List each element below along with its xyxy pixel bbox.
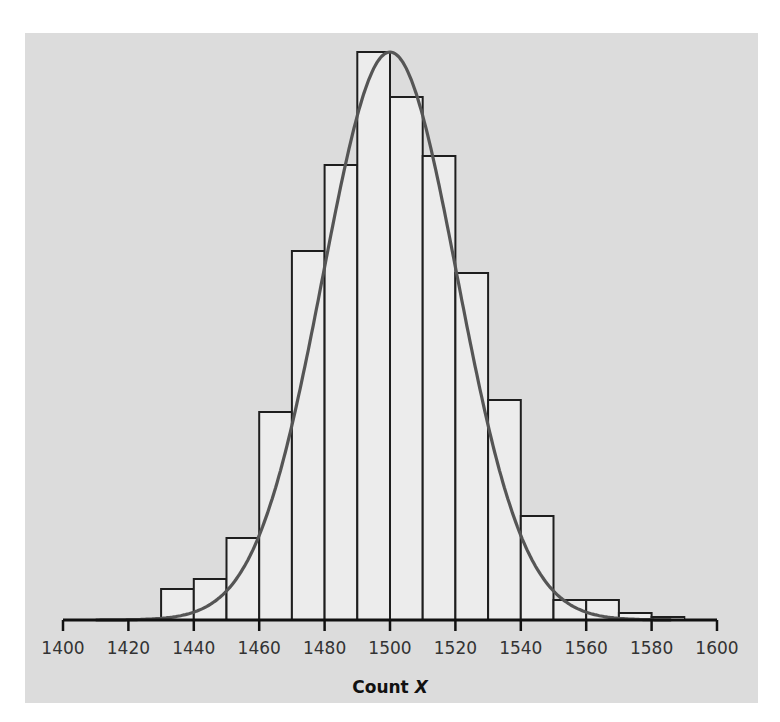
histogram-chart: 1400142014401460148015001520154015601580… bbox=[0, 0, 780, 722]
histogram-bar-1510 bbox=[423, 156, 456, 620]
histogram-bar-1520 bbox=[455, 273, 488, 620]
x-tick-label-1520: 1520 bbox=[434, 638, 477, 658]
x-tick-label-1580: 1580 bbox=[630, 638, 673, 658]
x-tick-label-1500: 1500 bbox=[368, 638, 411, 658]
x-tick-label-1560: 1560 bbox=[565, 638, 608, 658]
histogram-bar-1500 bbox=[390, 97, 423, 620]
x-tick-label-1420: 1420 bbox=[107, 638, 150, 658]
x-tick-label-1600: 1600 bbox=[695, 638, 738, 658]
histogram-bar-1490 bbox=[357, 52, 390, 620]
x-tick-label-1460: 1460 bbox=[238, 638, 281, 658]
histogram-bar-1440 bbox=[194, 579, 227, 620]
x-axis-label: Count X bbox=[352, 677, 428, 697]
x-tick-label-1480: 1480 bbox=[303, 638, 346, 658]
histogram-bar-1470 bbox=[292, 251, 325, 620]
x-tick-label-1400: 1400 bbox=[41, 638, 84, 658]
x-tick-label-1440: 1440 bbox=[172, 638, 215, 658]
x-tick-label-1540: 1540 bbox=[499, 638, 542, 658]
histogram-bar-1480 bbox=[325, 165, 358, 620]
histogram-bar-1530 bbox=[488, 400, 521, 620]
histogram-bars bbox=[161, 52, 684, 620]
x-axis: 1400142014401460148015001520154015601580… bbox=[41, 620, 738, 658]
